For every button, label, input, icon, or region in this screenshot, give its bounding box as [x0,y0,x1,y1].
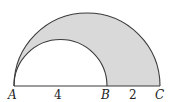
semicircle-diagram: A 4 B 2 C [0,0,172,102]
segment-label-bc: 2 [129,88,137,102]
point-label-c: C [155,88,164,102]
point-label-b: B [100,88,110,102]
segment-label-ab: 4 [54,88,62,102]
point-label-a: A [7,88,17,102]
shaded-region [14,13,160,86]
